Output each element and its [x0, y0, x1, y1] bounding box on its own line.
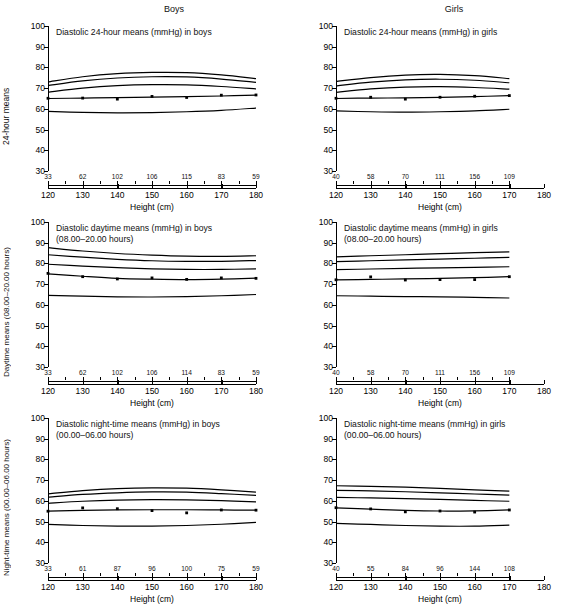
- x-tick-label: 120: [41, 191, 55, 200]
- x-tick-mark: [48, 380, 49, 384]
- x-tick-mark: [544, 576, 545, 580]
- sample-size-label: 156: [469, 173, 480, 180]
- chart-panel-diastolic-24h-girls: 10090807060504030Diastolic 24-hour means…: [288, 18, 575, 214]
- sample-size-minor-tick: [239, 377, 240, 380]
- centile-curves: [336, 222, 544, 367]
- plot-area: 10090807060504030Diastolic daytime means…: [48, 222, 256, 367]
- sample-size-minor-tick: [169, 181, 170, 184]
- centile-curves: [48, 26, 256, 171]
- column-header-boys: Boys: [114, 4, 234, 14]
- x-axis-label: Height (cm): [336, 398, 544, 408]
- x-tick-mark: [336, 576, 337, 580]
- x-tick-label: 150: [145, 387, 159, 396]
- x-tick-mark: [544, 184, 545, 188]
- x-tick-label: 160: [468, 191, 482, 200]
- sample-size-label: 144: [469, 565, 480, 572]
- x-tick-label: 150: [433, 387, 447, 396]
- x-tick-mark: [256, 184, 257, 188]
- x-tick-label: 160: [180, 583, 194, 592]
- sample-size-minor-tick: [135, 377, 136, 380]
- centile-line: [48, 500, 256, 504]
- y-tick-mark: [44, 171, 48, 172]
- x-axis: 120130140150160170180Height (cm): [336, 384, 544, 410]
- sample-size-label: 102: [112, 369, 123, 376]
- y-tick-label: 30: [313, 363, 333, 372]
- x-tick-label: 140: [110, 191, 124, 200]
- y-tick-label: 60: [313, 497, 333, 506]
- sample-size-label: 62: [79, 173, 86, 180]
- sample-size-label: 84: [402, 565, 409, 572]
- data-point: [81, 507, 84, 510]
- x-tick-mark: [152, 380, 153, 384]
- data-point: [404, 98, 407, 101]
- centile-line: [336, 96, 509, 99]
- data-point: [47, 97, 50, 100]
- sample-size-label: 70: [402, 173, 409, 180]
- y-tick-label: 70: [25, 84, 45, 93]
- y-tick-label: 50: [25, 321, 45, 330]
- x-axis-label: Height (cm): [336, 202, 544, 212]
- data-point: [473, 278, 476, 281]
- y-tick-label: 80: [313, 63, 333, 72]
- x-tick-label: 120: [329, 387, 343, 396]
- sample-size-minor-tick: [204, 181, 205, 184]
- centile-line: [336, 490, 509, 495]
- sample-size-minor-tick: [492, 181, 493, 184]
- chart-panel-diastolic-24h-boys: 24-hour means 10090807060504030Diastolic…: [0, 18, 287, 214]
- sample-size-axis: 33621021061158359: [48, 173, 256, 183]
- x-tick-label: 140: [398, 387, 412, 396]
- sample-size-label: 156: [469, 369, 480, 376]
- x-tick-mark: [152, 576, 153, 580]
- y-tick-label: 40: [313, 342, 333, 351]
- sample-size-label: 58: [367, 369, 374, 376]
- x-tick-label: 130: [76, 583, 90, 592]
- sample-size-minor-tick: [204, 377, 205, 380]
- y-tick-label: 50: [25, 125, 45, 134]
- y-tick-label: 100: [313, 414, 333, 423]
- sample-size-minor-tick: [65, 573, 66, 576]
- y-tick-label: 60: [25, 301, 45, 310]
- sample-size-label: 70: [402, 369, 409, 376]
- sample-size-minor-tick: [423, 377, 424, 380]
- y-tick-label: 60: [313, 105, 333, 114]
- x-axis-label: Height (cm): [48, 398, 256, 408]
- x-tick-mark: [152, 184, 153, 188]
- y-tick-label: 50: [313, 517, 333, 526]
- x-tick-mark: [371, 380, 372, 384]
- sample-size-minor-tick: [169, 573, 170, 576]
- x-tick-label: 150: [433, 191, 447, 200]
- data-point: [335, 278, 338, 281]
- centile-line: [336, 267, 509, 270]
- sample-size-label: 58: [367, 173, 374, 180]
- centile-line: [48, 108, 256, 113]
- sample-size-minor-tick: [492, 573, 493, 576]
- centile-line: [48, 488, 256, 494]
- x-tick-mark: [475, 380, 476, 384]
- x-tick-label: 180: [537, 191, 551, 200]
- x-tick-label: 180: [249, 387, 263, 396]
- x-tick-mark: [371, 184, 372, 188]
- data-point: [369, 508, 372, 511]
- figure-panel-grid: Boys Girls 24-hour means 100908070605040…: [0, 0, 575, 613]
- sample-size-label: 59: [252, 565, 259, 572]
- y-tick-label: 60: [25, 497, 45, 506]
- x-tick-label: 170: [502, 387, 516, 396]
- sample-size-label: 108: [504, 565, 515, 572]
- centile-line: [336, 79, 509, 86]
- x-tick-mark: [117, 380, 118, 384]
- x-tick-mark: [544, 380, 545, 384]
- x-tick-label: 170: [502, 191, 516, 200]
- y-tick-label: 90: [313, 434, 333, 443]
- y-tick-mark: [332, 563, 336, 564]
- data-point: [220, 94, 223, 97]
- data-point: [47, 510, 50, 513]
- data-point: [220, 277, 223, 280]
- y-tick-label: 40: [313, 146, 333, 155]
- sample-size-axis-line: [336, 381, 509, 382]
- x-axis: 120130140150160170180Height (cm): [336, 188, 544, 214]
- data-point: [151, 509, 154, 512]
- x-tick-label: 140: [110, 583, 124, 592]
- centile-line: [48, 295, 256, 297]
- y-tick-label: 50: [313, 125, 333, 134]
- x-tick-mark: [83, 576, 84, 580]
